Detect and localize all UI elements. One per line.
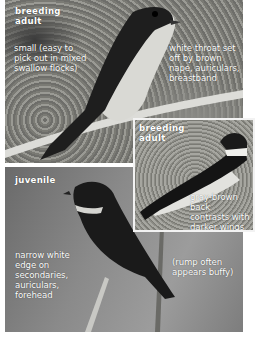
- label-breeding-adult: breeding adult: [15, 6, 61, 26]
- label-inset-breeding-adult: breeding adult: [139, 123, 185, 143]
- label-juvenile: juvenile: [15, 175, 56, 185]
- photo-breeding-adult-ground: breeding adult gray-brown back contrasts…: [133, 118, 255, 232]
- note-gray-brown-back: gray-brown back contrasts with darker wi…: [190, 192, 253, 232]
- note-rump-buffy: (rump often appears buffy): [172, 257, 233, 277]
- note-small-size: small (easy to pick out in mixed swallow…: [14, 43, 86, 73]
- note-narrow-white-edge: narrow white edge on secondaries, auricu…: [15, 250, 70, 300]
- note-white-throat: white throat set off by brown nape, auri…: [169, 43, 239, 83]
